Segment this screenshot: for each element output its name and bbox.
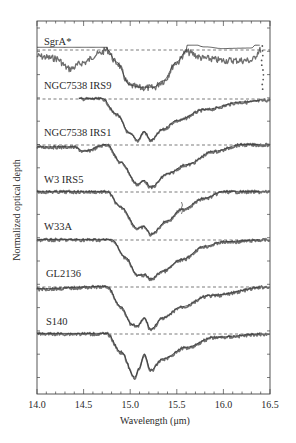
label-ngc7538-irs9: NGC7538 IRS9 bbox=[44, 80, 111, 91]
label-ngc7538-irs1: NGC7538 IRS1 bbox=[44, 127, 111, 138]
x-tick-label: 16.5 bbox=[261, 399, 279, 410]
plot-frame bbox=[37, 21, 270, 394]
spectra-curves bbox=[37, 45, 270, 379]
label-w3-irs5: W3 IRS5 bbox=[44, 174, 83, 185]
label-sgra: SgrA* bbox=[44, 36, 71, 47]
x-axis-title: Wavelength (μm) bbox=[120, 415, 190, 427]
label-gl2136: GL2136 bbox=[46, 268, 81, 279]
y-axis-title: Normalized optical depth bbox=[11, 159, 22, 261]
x-tick-label: 14.0 bbox=[28, 399, 46, 410]
label-w33a: W33A bbox=[44, 221, 72, 232]
label-s140: S140 bbox=[46, 316, 68, 327]
axis-ticks bbox=[37, 21, 270, 394]
x-tick-label: 15.5 bbox=[168, 399, 186, 410]
x-tick-label: 16.0 bbox=[215, 399, 233, 410]
x-tick-label: 14.5 bbox=[75, 399, 93, 410]
spectra-chart: SgrA* NGC7538 IRS9 NGC7538 IRS1 W3 IRS5 … bbox=[0, 0, 296, 443]
x-tick-label: 15.0 bbox=[121, 399, 139, 410]
